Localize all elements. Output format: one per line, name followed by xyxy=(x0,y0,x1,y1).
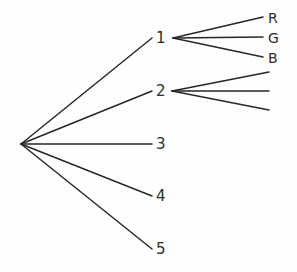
edge-1-to-G xyxy=(173,37,263,38)
node-label-3: 3 xyxy=(156,137,166,152)
edge-2-to-leaf-3 xyxy=(172,91,269,110)
node-label-1: 1 xyxy=(156,31,166,46)
leaf-label-r: R xyxy=(268,11,278,25)
root-branch-group xyxy=(21,38,152,249)
node-label-2: 2 xyxy=(156,84,166,99)
edge-1-to-R xyxy=(173,17,263,38)
leaf-label-g: G xyxy=(268,31,279,45)
edge-root-to-5 xyxy=(21,144,152,249)
node2-branch-group xyxy=(172,72,269,110)
edge-root-to-1 xyxy=(21,38,152,144)
leaf-label-b: B xyxy=(268,51,278,65)
tree-diagram-svg xyxy=(0,0,297,272)
node-label-4: 4 xyxy=(156,189,166,204)
edge-2-to-leaf-1 xyxy=(172,72,269,91)
node1-branch-group xyxy=(173,17,263,57)
edge-1-to-B xyxy=(173,38,263,57)
node-label-5: 5 xyxy=(156,242,166,257)
edge-root-to-4 xyxy=(21,144,152,196)
tree-diagram-canvas: 1 2 3 4 5 R G B xyxy=(0,0,297,272)
edge-root-to-2 xyxy=(21,91,152,144)
